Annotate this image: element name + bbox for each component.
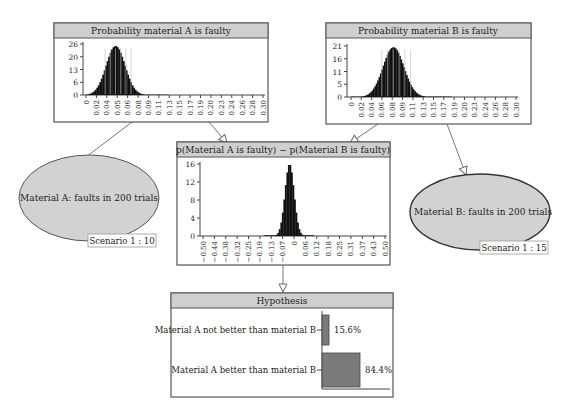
x-tick-label: −0.07 bbox=[279, 241, 287, 262]
x-tick-label: 0.43 bbox=[370, 241, 378, 257]
x-tick-label: 0.23 bbox=[471, 102, 479, 118]
x-tick-label: 0.02 bbox=[93, 100, 101, 116]
y-tick-label: 12 bbox=[185, 178, 195, 187]
x-tick-label: 0.30 bbox=[260, 100, 268, 116]
hypothesis-bar bbox=[322, 353, 360, 387]
x-tick-label: 0.04 bbox=[368, 101, 376, 117]
x-tick-label: 0.09 bbox=[145, 100, 153, 116]
x-tick-label: 0.05 bbox=[114, 100, 122, 116]
panel-difference[interactable]: p(Material A is faulty) − p(Material B i… bbox=[176, 142, 390, 265]
x-tick-label: 0.13 bbox=[420, 102, 428, 118]
y-tick-label: 5 bbox=[337, 80, 342, 89]
y-tick-label: 16 bbox=[185, 160, 195, 169]
node-label: Material B: faults in 200 trials bbox=[414, 207, 552, 217]
panel-title: Probability material B is faulty bbox=[358, 26, 499, 36]
x-tick-label: 0.06 bbox=[302, 240, 310, 256]
x-tick-label: 0.17 bbox=[187, 100, 195, 116]
y-tick-label: 6 bbox=[73, 78, 78, 87]
x-tick-label: 0.37 bbox=[359, 241, 367, 257]
x-tick-label: 0.26 bbox=[492, 101, 500, 117]
panel-probability-a[interactable]: Probability material A is faulty 2620136… bbox=[54, 23, 268, 122]
x-tick-label: 0.24 bbox=[482, 101, 490, 117]
edge-prob-b-to-diff bbox=[350, 124, 378, 143]
node-material-a[interactable]: Material A: faults in 200 trials Scenari… bbox=[19, 155, 159, 247]
x-tick-label: 0.50 bbox=[382, 241, 390, 257]
x-tick-label: 0.28 bbox=[502, 102, 510, 118]
x-tick-label: −0.32 bbox=[234, 241, 242, 262]
scenario-label: Scenario 1 : 15 bbox=[481, 243, 546, 253]
x-tick-label: 0.15 bbox=[430, 102, 438, 118]
x-tick-label: −0.50 bbox=[200, 241, 208, 262]
x-tick-label: 0.11 bbox=[409, 102, 417, 118]
x-tick-label: 0.20 bbox=[461, 102, 469, 118]
y-tick-label: 20 bbox=[68, 53, 78, 62]
x-tick-label: −0.38 bbox=[222, 241, 230, 262]
scenario-label: Scenario 1 : 10 bbox=[89, 236, 154, 246]
bayesian-network-diagram: Probability material A is faulty 2620136… bbox=[0, 0, 569, 418]
x-tick-label: 0 bbox=[83, 100, 91, 104]
hypothesis-label: Material A not better than material B bbox=[155, 325, 316, 335]
edge-prob-b-to-node-b bbox=[447, 124, 466, 175]
y-tick-label: 11 bbox=[332, 68, 342, 77]
x-tick-label: 0.24 bbox=[228, 99, 236, 115]
y-tick-label: 0 bbox=[337, 93, 342, 102]
y-tick-label: 4 bbox=[190, 214, 195, 223]
node-material-b[interactable]: Material B: faults in 200 trials Scenari… bbox=[410, 174, 552, 254]
panel-title: Probability material A is faulty bbox=[91, 26, 232, 36]
x-tick-label: 0.08 bbox=[389, 102, 397, 118]
x-tick-label: 0.13 bbox=[166, 100, 174, 116]
x-tick-label: 0.02 bbox=[358, 102, 366, 118]
x-tick-label: 0.08 bbox=[135, 100, 143, 116]
x-tick-label: 0.31 bbox=[347, 241, 355, 257]
x-tick-label: 0.19 bbox=[197, 100, 205, 116]
x-tick-label: −0.25 bbox=[245, 241, 253, 262]
y-tick-label: 26 bbox=[68, 40, 78, 49]
panel-probability-b[interactable]: Probability material B is faulty 2116115… bbox=[326, 23, 531, 124]
x-tick-label: 0.23 bbox=[218, 100, 226, 116]
y-tick-label: 0 bbox=[73, 91, 78, 100]
x-tick-label: 0.30 bbox=[513, 102, 521, 118]
edge-prob-a-to-diff bbox=[209, 122, 227, 143]
panel-hypothesis[interactable]: Hypothesis Material A not better than ma… bbox=[155, 293, 393, 397]
x-tick-label: 0 bbox=[348, 102, 356, 106]
y-tick-label: 13 bbox=[68, 66, 78, 75]
histogram-bar bbox=[312, 235, 314, 236]
x-tick-label: 0.04 bbox=[103, 99, 111, 115]
x-tick-label: 0.18 bbox=[325, 241, 333, 257]
x-tick-label: 0.28 bbox=[249, 100, 257, 116]
x-tick-label: 0.17 bbox=[440, 102, 448, 118]
panel-title: Hypothesis bbox=[257, 296, 308, 306]
x-tick-label: 0.06 bbox=[124, 99, 132, 115]
y-tick-label: 16 bbox=[332, 55, 342, 64]
x-tick-label: −0.13 bbox=[268, 241, 276, 262]
hypothesis-value: 84.4% bbox=[365, 365, 392, 375]
x-tick-label: 0.20 bbox=[207, 100, 215, 116]
x-tick-label: −0.19 bbox=[256, 241, 264, 262]
panel-title: p(Material A is faulty) − p(Material B i… bbox=[176, 145, 390, 155]
y-tick-label: 0 bbox=[190, 232, 195, 241]
x-tick-label: 0 bbox=[291, 241, 299, 245]
x-tick-label: −0.44 bbox=[211, 240, 219, 262]
y-tick-label: 21 bbox=[332, 42, 342, 51]
node-label: Material A: faults in 200 trials bbox=[20, 193, 158, 203]
x-tick-label: 0.19 bbox=[451, 102, 459, 118]
x-tick-label: 0.12 bbox=[313, 241, 321, 257]
hypothesis-bar bbox=[322, 315, 329, 345]
y-tick-label: 8 bbox=[190, 196, 195, 205]
hypothesis-value: 15.6% bbox=[334, 325, 361, 335]
x-tick-label: 0.26 bbox=[239, 99, 247, 115]
x-tick-label: 0.11 bbox=[155, 100, 163, 116]
hypothesis-label: Material A better than material B bbox=[171, 365, 316, 375]
x-tick-label: 0.15 bbox=[176, 100, 184, 116]
x-tick-label: 0.09 bbox=[399, 102, 407, 118]
x-tick-label: 0.06 bbox=[378, 101, 386, 117]
x-tick-label: 0.25 bbox=[336, 241, 344, 257]
